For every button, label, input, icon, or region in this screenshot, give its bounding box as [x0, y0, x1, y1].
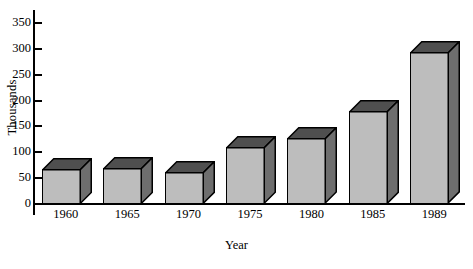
- y-tick-mark: [35, 74, 42, 76]
- bar: [42, 158, 92, 204]
- y-tick-label-text: 150: [1, 119, 31, 132]
- y-tick-label-text: 200: [1, 94, 31, 107]
- bar-side-face: [387, 101, 398, 204]
- y-tick-label: 350: [0, 16, 31, 29]
- x-tick-label: 1960: [35, 208, 96, 221]
- x-tick-label: 1970: [158, 208, 219, 221]
- y-tick-label-text: 50: [1, 171, 31, 184]
- y-axis-line: [33, 10, 35, 215]
- y-tick-mark: [35, 22, 42, 24]
- y-tick-mark: [35, 100, 42, 102]
- x-tick-label: 1965: [96, 208, 157, 221]
- bar: [165, 161, 215, 204]
- y-tick-label: 150: [0, 119, 31, 132]
- y-tick-label-text: 0: [1, 197, 31, 210]
- bar-3d-faces: [42, 158, 92, 204]
- y-tick-label-text: 300: [1, 42, 31, 55]
- bar-side-face: [326, 128, 337, 203]
- x-tick-label: 1985: [342, 208, 403, 221]
- y-tick-label-text: 250: [1, 68, 31, 81]
- bar-3d-faces: [287, 127, 337, 204]
- bar: [226, 136, 276, 204]
- y-tick-label-text: 350: [1, 16, 31, 29]
- bar-chart: Thousands 050100150200250300350 19601965…: [0, 0, 473, 269]
- x-tick-label: 1975: [219, 208, 280, 221]
- bar-3d-faces: [410, 41, 460, 204]
- bar: [103, 157, 153, 204]
- y-tick-label-text: 100: [1, 145, 31, 158]
- y-tick-mark: [35, 151, 42, 153]
- bar: [287, 127, 337, 204]
- y-tick-label: 200: [0, 94, 31, 107]
- y-tick-label: 0: [0, 197, 31, 210]
- y-tick-label: 50: [0, 171, 31, 184]
- bar: [410, 41, 460, 204]
- x-axis-title-text: Year: [225, 238, 248, 252]
- bar: [349, 100, 399, 204]
- bar-3d-faces: [165, 161, 215, 204]
- bar-side-face: [449, 42, 460, 203]
- bar-side-face: [264, 137, 275, 203]
- y-tick-label: 250: [0, 68, 31, 81]
- bar-3d-faces: [349, 100, 399, 204]
- bar-3d-faces: [226, 136, 276, 204]
- x-tick-label: 1980: [281, 208, 342, 221]
- bar-3d-faces: [103, 157, 153, 204]
- y-tick-label: 100: [0, 145, 31, 158]
- x-tick-label: 1989: [404, 208, 465, 221]
- x-axis-title: Year: [0, 238, 473, 253]
- y-tick-mark: [35, 125, 42, 127]
- y-tick-mark: [35, 48, 42, 50]
- y-tick-label: 300: [0, 42, 31, 55]
